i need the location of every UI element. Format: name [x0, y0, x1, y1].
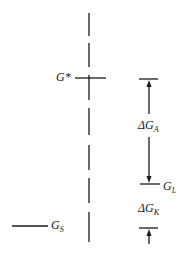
delta-g-a-label: ΔGA	[138, 119, 159, 133]
g-s-label: GS	[51, 219, 64, 233]
arrowhead-down-icon	[147, 176, 152, 183]
g-star-label: G*	[56, 71, 71, 83]
g-l-label: GL	[163, 180, 176, 194]
arrowhead-up-icon	[147, 80, 152, 87]
delta-g-k-label: ΔGK	[138, 202, 159, 216]
arrowhead-up-icon	[147, 229, 152, 236]
